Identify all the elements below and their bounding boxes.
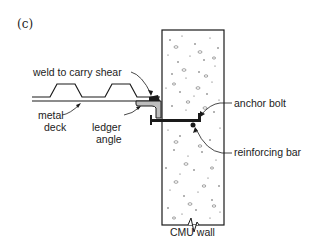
- figure-label: (c): [17, 17, 33, 31]
- anchor-bolt-label: anchor bolt: [234, 97, 286, 109]
- ledger-angle-label-line2: angle: [96, 133, 122, 145]
- ledger-angle: [136, 101, 161, 118]
- metal-deck-label-line1: metal: [38, 109, 64, 121]
- cmu-wall: [162, 30, 224, 232]
- weld: [149, 95, 160, 101]
- cmu-wall-label: CMU wall: [170, 226, 215, 238]
- reinforcing-bar: [191, 123, 196, 128]
- weld-label: weld to carry shear: [33, 66, 122, 78]
- ledger-angle-label-line1: ledger: [92, 121, 121, 133]
- reinforcing-bar-label: reinforcing bar: [234, 146, 301, 158]
- metal-deck: [32, 84, 160, 101]
- metal-deck-label-line2: deck: [44, 121, 66, 133]
